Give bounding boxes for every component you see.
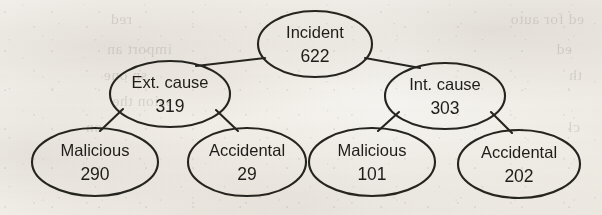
tree-edge-incident-to-ext-cause xyxy=(196,58,265,66)
node-value-int-cause: 303 xyxy=(430,98,459,118)
tree-node-incident[interactable]: Incident622 xyxy=(258,11,372,77)
node-outline-incident xyxy=(258,11,372,77)
node-value-ext-malicious: 290 xyxy=(80,164,109,184)
node-value-ext-accidental: 29 xyxy=(237,164,256,184)
node-value-int-malicious: 101 xyxy=(357,164,386,184)
node-value-ext-cause: 319 xyxy=(155,96,184,116)
node-outline-int-cause xyxy=(385,63,505,129)
node-outline-ext-malicious xyxy=(32,128,158,196)
node-label-incident: Incident xyxy=(286,23,344,41)
tree-node-ext-accidental[interactable]: Accidental29 xyxy=(188,128,306,196)
node-outline-int-accidental xyxy=(458,130,580,198)
tree-node-int-cause[interactable]: Int. cause303 xyxy=(385,63,505,129)
node-label-int-accidental: Accidental xyxy=(481,143,557,161)
node-label-ext-cause: Ext. cause xyxy=(131,73,208,91)
node-outline-int-malicious xyxy=(309,128,435,196)
tree-node-int-malicious[interactable]: Malicious101 xyxy=(309,128,435,196)
node-label-int-cause: Int. cause xyxy=(409,75,481,93)
scanned-figure-page: ed for autorededimport anthsn onession t… xyxy=(0,0,602,215)
node-value-int-accidental: 202 xyxy=(504,166,533,186)
tree-node-group: Incident622Ext. cause319Int. cause303Mal… xyxy=(32,11,580,198)
node-value-incident: 622 xyxy=(300,46,329,66)
node-outline-ext-accidental xyxy=(188,128,306,196)
tree-node-ext-malicious[interactable]: Malicious290 xyxy=(32,128,158,196)
node-label-int-malicious: Malicious xyxy=(338,141,407,159)
tree-node-int-accidental[interactable]: Accidental202 xyxy=(458,130,580,198)
tree-edge-incident-to-int-cause xyxy=(365,58,420,68)
node-outline-ext-cause xyxy=(110,61,230,127)
incident-cause-tree-diagram: Incident622Ext. cause319Int. cause303Mal… xyxy=(0,0,602,215)
tree-node-ext-cause[interactable]: Ext. cause319 xyxy=(110,61,230,127)
node-label-ext-accidental: Accidental xyxy=(209,141,285,159)
node-label-ext-malicious: Malicious xyxy=(61,141,130,159)
